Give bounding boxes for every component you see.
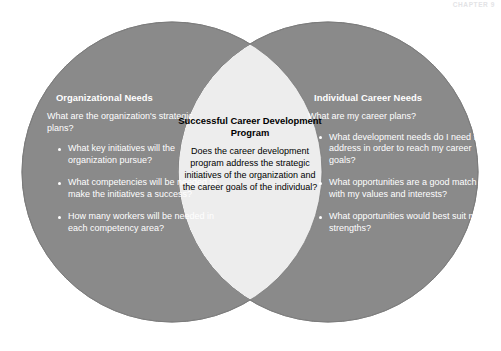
overlap-body: Does the career development program addr… xyxy=(178,146,322,194)
chapter-watermark: CHAPTER 9 xyxy=(453,1,495,9)
list-item: What development needs do I need to addr… xyxy=(319,132,488,167)
individual-career-needs-title: Individual Career Needs xyxy=(314,92,488,104)
individual-career-needs-bullet-list: What development needs do I need to addr… xyxy=(319,132,488,235)
overlap-title: Successful Career Development Program xyxy=(178,115,322,139)
venn-diagram-figure: CHAPTER 9 Organizational Needs What are … xyxy=(0,0,501,351)
list-item: What opportunities would best suit my st… xyxy=(319,211,488,234)
individual-career-needs-lead: What are my career plans? xyxy=(308,111,488,123)
list-item: How many workers will be needed in each … xyxy=(58,211,225,234)
successful-career-program-panel: Successful Career Development Program Do… xyxy=(178,115,322,194)
individual-career-needs-panel: Individual Career Needs What are my care… xyxy=(308,92,488,234)
organizational-needs-title: Organizational Needs xyxy=(56,92,225,104)
list-item: What opportunities are a good match with… xyxy=(319,177,488,200)
